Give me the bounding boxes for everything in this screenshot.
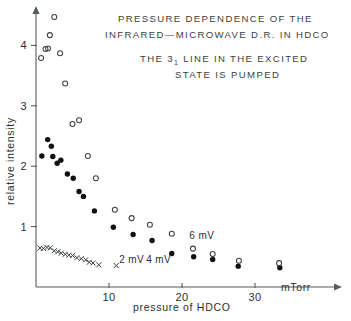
pressure-dependence-scatter-chart: PRESSURE DEPENDENCE OF THE INFRARED—MICR… xyxy=(0,0,351,321)
x-axis-ticks: 102030 xyxy=(103,283,262,303)
series-label-6-mv: 6 mV xyxy=(189,230,214,241)
y-axis-arrowhead xyxy=(32,6,39,14)
point-1-16 xyxy=(210,257,215,262)
point-2-18 xyxy=(277,261,282,266)
y-axis-ticks: 1234 xyxy=(21,39,37,232)
point-0-14 xyxy=(90,260,95,265)
point-2-9 xyxy=(85,153,90,158)
point-2-6 xyxy=(63,81,68,86)
series-4-mv xyxy=(39,137,282,271)
series-label-2-mv: 2 mV xyxy=(119,254,144,265)
x-tick-label-30: 30 xyxy=(249,291,262,303)
axes xyxy=(32,6,342,291)
point-2-12 xyxy=(129,216,134,221)
point-1-10 xyxy=(92,208,97,213)
point-1-6 xyxy=(65,171,70,176)
point-1-0 xyxy=(39,153,44,158)
subtitle-line-2: STATE IS PUMPED xyxy=(175,69,280,80)
x-axis-arrowhead xyxy=(334,283,342,290)
series-label-4-mv: 4 mV xyxy=(146,254,171,265)
point-2-4 xyxy=(52,15,57,20)
point-2-7 xyxy=(70,121,75,126)
x-axis-title: pressure of HDCO xyxy=(133,301,231,313)
series-2-mv xyxy=(38,245,119,268)
y-tick-label-4: 4 xyxy=(21,39,27,51)
point-1-1 xyxy=(45,137,50,142)
point-2-14 xyxy=(169,231,174,236)
point-2-15 xyxy=(190,246,195,251)
point-1-12 xyxy=(130,232,135,237)
x-axis-unit: mTorr xyxy=(281,281,311,293)
point-2-10 xyxy=(93,176,98,181)
title-line-1: PRESSURE DEPENDENCE OF THE xyxy=(118,13,313,24)
point-0-1 xyxy=(41,246,46,251)
point-2-0 xyxy=(39,56,44,61)
point-1-5 xyxy=(58,157,63,162)
point-2-16 xyxy=(210,252,215,257)
y-axis-title: relative intensity xyxy=(4,117,16,205)
point-1-7 xyxy=(71,176,76,181)
point-1-13 xyxy=(149,238,154,243)
point-2-11 xyxy=(112,207,117,212)
subtitle-line-1: THE 31 LINE IN THE EXCITED xyxy=(140,53,308,66)
chart-page: PRESSURE DEPENDENCE OF THE INFRARED—MICR… xyxy=(0,0,351,321)
y-tick-label-2: 2 xyxy=(21,160,27,172)
point-1-2 xyxy=(49,144,54,149)
point-0-11 xyxy=(79,256,84,261)
point-1-8 xyxy=(76,189,81,194)
chart-title-block: PRESSURE DEPENDENCE OF THE INFRARED—MICR… xyxy=(105,13,330,80)
point-0-3 xyxy=(48,245,53,250)
point-2-3 xyxy=(47,33,52,38)
point-2-13 xyxy=(147,222,152,227)
y-tick-label-1: 1 xyxy=(21,221,27,233)
point-2-17 xyxy=(236,258,241,263)
point-1-15 xyxy=(191,254,196,259)
point-1-3 xyxy=(50,154,55,159)
point-1-9 xyxy=(81,194,86,199)
point-1-11 xyxy=(111,225,116,230)
subtitle-pre: THE xyxy=(140,53,167,64)
x-tick-label-10: 10 xyxy=(103,291,116,303)
subtitle-sub-base: 3 xyxy=(167,53,174,64)
point-2-5 xyxy=(58,51,63,56)
point-0-16 xyxy=(114,263,119,268)
subtitle-post: LINE IN THE EXCITED xyxy=(179,53,308,64)
point-2-8 xyxy=(77,118,82,123)
title-line-2: INFRARED—MICROWAVE D.R. IN HDCO xyxy=(105,29,330,40)
y-tick-label-3: 3 xyxy=(21,100,27,112)
point-1-17 xyxy=(236,263,241,268)
point-0-4 xyxy=(52,248,57,253)
point-0-15 xyxy=(96,262,101,267)
